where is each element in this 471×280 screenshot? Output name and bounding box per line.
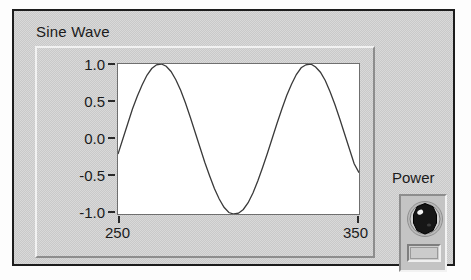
power-indicator-inner bbox=[410, 247, 438, 259]
rotary-knob-icon[interactable] bbox=[406, 200, 444, 238]
y-tick-label-1: 1.0 bbox=[47, 56, 105, 73]
x-tick-mark-right bbox=[357, 216, 359, 223]
y-tick-mark-1 bbox=[108, 63, 115, 65]
plot-area[interactable] bbox=[117, 63, 360, 215]
y-tick-label-4: -0.5 bbox=[47, 167, 105, 184]
power-label: Power bbox=[392, 169, 435, 186]
waveform-graph[interactable]: 1.0 0.5 0.0 -0.5 -1.0 250 350 bbox=[35, 46, 375, 258]
power-indicator[interactable] bbox=[407, 244, 441, 262]
y-tick-mark-4 bbox=[108, 174, 115, 176]
y-tick-label-5: -1.0 bbox=[47, 204, 105, 221]
waveform-trace-svg bbox=[118, 64, 359, 214]
y-tick-label-2: 0.5 bbox=[47, 93, 105, 110]
graph-title: Sine Wave bbox=[36, 23, 110, 40]
y-tick-label-3: 0.0 bbox=[47, 130, 105, 147]
waveform-trace bbox=[118, 64, 359, 214]
y-tick-mark-2 bbox=[108, 100, 115, 102]
x-tick-label-right: 350 bbox=[343, 224, 368, 241]
x-tick-label-left: 250 bbox=[105, 224, 130, 241]
y-tick-mark-3 bbox=[108, 137, 115, 139]
power-control[interactable] bbox=[399, 194, 447, 272]
x-tick-mark-left bbox=[118, 216, 120, 223]
y-tick-mark-5 bbox=[108, 211, 115, 213]
screenshot-page: Sine Wave 1.0 0.5 0.0 -0.5 -1.0 bbox=[0, 0, 471, 280]
front-panel: Sine Wave 1.0 0.5 0.0 -0.5 -1.0 bbox=[12, 9, 455, 266]
